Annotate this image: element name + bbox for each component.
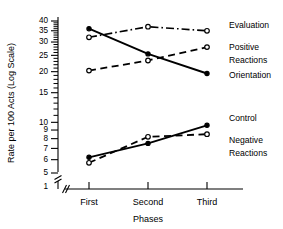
y-tick-label-35: 35 [39, 26, 49, 35]
y-axis-ticks [51, 21, 58, 173]
y-tick-label-6: 6 [43, 155, 48, 164]
data-point-evaluation-second [146, 24, 151, 29]
data-point-positive-reactions-third [205, 45, 210, 50]
data-point-control-third [205, 123, 209, 127]
y-tick-label-8: 8 [43, 134, 48, 143]
series-label-layer: EvaluationPositiveReactionsOrientationCo… [229, 20, 271, 158]
series-label-evaluation: Evaluation [229, 20, 269, 30]
series-label-orientation: Orientation [229, 70, 271, 80]
data-point-evaluation-first [87, 35, 92, 40]
data-point-evaluation-third [205, 29, 210, 34]
y-tick-label-15: 15 [39, 88, 49, 97]
data-point-positive-reactions-first [87, 68, 92, 73]
y-tick-label-30: 30 [39, 37, 49, 46]
y-tick-label-20: 20 [39, 67, 49, 76]
x-axis-ticks [89, 182, 207, 189]
data-point-negative-reactions-first [87, 161, 92, 166]
data-series-layer [87, 24, 210, 165]
y-tick-label-40: 40 [39, 16, 49, 25]
series-label-negative-reactions-line1: Negative [229, 135, 263, 145]
x-axis-title: Phases [133, 214, 164, 224]
series-label-negative-reactions-line2: Reactions [229, 148, 267, 158]
data-point-negative-reactions-second [146, 135, 151, 140]
data-point-orientation-third [205, 71, 209, 75]
series-label-positive-reactions-line2: Reactions [229, 55, 267, 65]
y-tick-label-1: 1 [43, 182, 48, 191]
series-label-control: Control [229, 113, 257, 123]
y-tick-label-5: 5 [43, 168, 48, 177]
x-tick-label-third: Third [197, 197, 218, 207]
line-chart: 40353025201510987651 First Second Third … [0, 0, 283, 229]
series-label-positive-reactions-line1: Positive [229, 42, 259, 52]
y-axis-title: Rate per 100 Acts (Log Scale) [6, 43, 16, 163]
data-point-orientation-first [87, 27, 91, 31]
chart-figure: 40353025201510987651 First Second Third … [0, 0, 283, 229]
data-point-control-first [87, 155, 91, 159]
data-point-orientation-second [146, 52, 150, 56]
data-point-negative-reactions-third [205, 132, 210, 137]
data-point-control-second [146, 141, 150, 145]
data-point-positive-reactions-second [146, 58, 151, 63]
y-tick-label-7: 7 [43, 144, 48, 153]
y-axis-tick-labels: 40353025201510987651 [39, 16, 49, 191]
x-tick-label-first: First [80, 197, 98, 207]
y-tick-label-25: 25 [39, 51, 49, 60]
x-tick-label-second: Second [133, 197, 164, 207]
